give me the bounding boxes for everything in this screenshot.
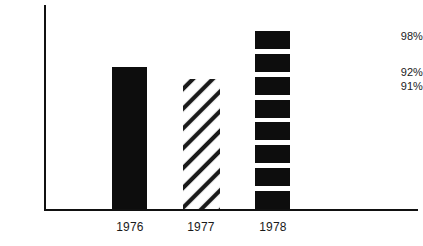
x-axis-label-1976: 1976: [100, 220, 160, 234]
bar-segment: [255, 191, 290, 209]
x-axis-label-1978: 1978: [243, 220, 303, 234]
x-axis-line: [44, 209, 418, 211]
bar-chart: 98% 92% 91% 1976 1977 1978: [0, 0, 423, 246]
bar-segment: [255, 168, 290, 186]
y-axis-tick-label-98: 98%: [385, 30, 423, 42]
bar-1976: [112, 67, 147, 209]
bar-segment: [255, 100, 290, 118]
bar-1978: [255, 31, 290, 209]
bar-segment: [255, 77, 290, 95]
y-axis-line: [44, 5, 46, 211]
bar-segment: [255, 145, 290, 163]
y-axis-tick-label-91: 91%: [385, 80, 423, 92]
x-axis-label-1977: 1977: [171, 220, 231, 234]
bar-segment: [255, 122, 290, 140]
bar-segment: [255, 54, 290, 72]
bar-segment: [255, 31, 290, 49]
bar-1977: [183, 79, 220, 209]
diagonal-hatch-pattern: [183, 79, 220, 209]
y-axis-tick-label-92: 92%: [385, 66, 423, 78]
